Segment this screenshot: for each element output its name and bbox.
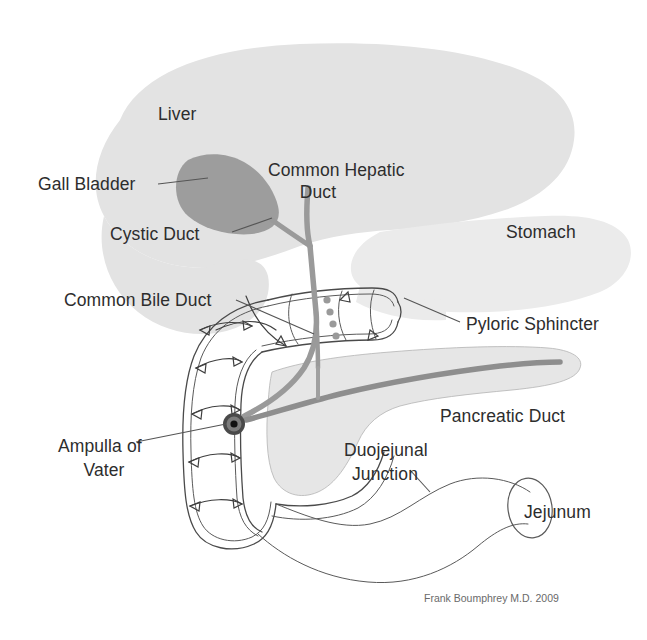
label-pyloric-sphincter: Pyloric Sphincter <box>466 314 599 334</box>
label-liver: Liver <box>158 104 197 124</box>
label-cystic-duct: Cystic Duct <box>110 224 200 244</box>
label-common-hepatic-duct-line1: Common Hepatic <box>268 160 405 180</box>
pylorus-arrow-bottom <box>368 330 378 340</box>
label-common-hepatic-duct-line2: Duct <box>300 182 336 202</box>
pylorus-lower-wall <box>262 322 398 352</box>
label-duojejunal-junction-line2: Junction <box>352 464 418 484</box>
label-pancreatic-duct: Pancreatic Duct <box>440 406 565 426</box>
pyloric-sphincter-dots <box>323 296 339 339</box>
label-common-bile-duct: Common Bile Duct <box>64 290 212 310</box>
ampulla-of-vater-marker <box>223 413 245 435</box>
label-duojejunal-junction-line1: Duojejunal <box>344 440 428 460</box>
duodenum-inner-wall-2 <box>235 350 258 536</box>
label-ampulla-of-vater-line2: Vater <box>83 460 124 480</box>
duodenum-inner-wall <box>241 352 262 532</box>
label-stomach: Stomach <box>506 222 576 242</box>
label-gall-bladder: Gall Bladder <box>38 174 136 194</box>
anatomy-diagram-canvas: Liver Gall Bladder Cystic Duct Common He… <box>0 0 647 640</box>
label-ampulla-of-vater-line1: Ampulla of <box>58 436 142 456</box>
leader-ampulla-of-vater <box>136 424 226 442</box>
label-jejunum: Jejunum <box>524 502 591 522</box>
anatomy-illustration: Liver Gall Bladder Cystic Duct Common He… <box>0 0 647 640</box>
jejunum-lower-wall <box>258 524 528 583</box>
bile-pancreatic-junction-stub <box>316 312 318 368</box>
pylorus-fold-1 <box>289 294 298 344</box>
credit-line: Frank Boumphrey M.D. 2009 <box>424 592 559 604</box>
